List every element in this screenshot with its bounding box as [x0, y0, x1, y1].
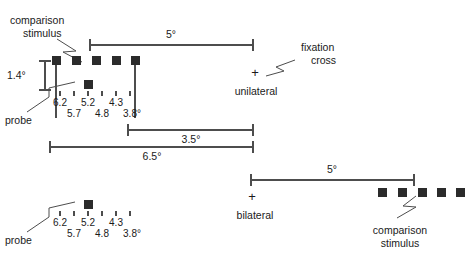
- comparison-square-top-3: [92, 56, 101, 65]
- probe-square-bottom: [84, 200, 93, 209]
- probe-scale-top-value-5-7: 5.7: [67, 108, 81, 120]
- stimulus-layout-figure: comparison stimulus 5° 1.4° 6.2 5.2 4.3 …: [0, 0, 469, 262]
- comparison-square-bottom-3: [418, 188, 427, 197]
- comparison-square-bottom-5: [456, 188, 465, 197]
- comparison-stimulus-label-top-line2: stimulus: [23, 27, 62, 39]
- fixation-cross-label-line1: fixation: [301, 41, 334, 53]
- fixation-cross-glyph-unilateral: +: [251, 66, 259, 81]
- measure-label-top-5deg: 5°: [166, 28, 176, 40]
- probe-label-bottom: probe: [5, 234, 32, 246]
- fixation-cross-label-line2: cross: [311, 54, 336, 66]
- comparison-square-top-4: [112, 56, 121, 65]
- probe-scale-bottom-value-4-3: 4.3: [109, 217, 123, 229]
- probe-square-bottom-group: [84, 200, 93, 209]
- comparison-square-top-1: [52, 56, 61, 65]
- comparison-square-top-2: [72, 56, 81, 65]
- comparison-squares-bottom: [378, 188, 465, 197]
- probe-scale-bottom-value-3-8: 3.8°: [123, 228, 141, 240]
- condition-label-unilateral: unilateral: [235, 85, 278, 97]
- comparison-squares-top: [52, 56, 140, 65]
- comparison-square-top-5: [131, 56, 140, 65]
- probe-square-top: [84, 80, 93, 89]
- probe-square-top-group: [84, 80, 93, 89]
- condition-label-bilateral: bilateral: [237, 209, 274, 221]
- comparison-square-bottom-2: [398, 188, 407, 197]
- probe-scale-bottom-value-4-8: 4.8: [95, 228, 109, 240]
- comparison-stimulus-label-top-line1: comparison: [10, 14, 64, 26]
- fixation-cross-glyph-bilateral: +: [248, 190, 256, 205]
- probe-scale-top-value-4-8: 4.8: [95, 108, 109, 120]
- measure-label-3-5deg: 3.5°: [182, 133, 201, 145]
- probe-scale-top-value-4-3: 4.3: [109, 97, 123, 109]
- comparison-stimulus-label-bottom-line1: comparison: [373, 224, 427, 236]
- probe-scale-bottom-value-5-7: 5.7: [67, 228, 81, 240]
- measure-label-bottom-5deg: 5°: [327, 163, 337, 175]
- probe-scale-top-value-3-8: 3.8°: [123, 108, 141, 120]
- probe-scale-top-value-6-2: 6.2: [53, 97, 67, 109]
- comparison-squares-top-layer: [0, 0, 469, 262]
- probe-scale-bottom-value-5-2: 5.2: [81, 217, 95, 229]
- measure-label-6-5deg: 6.5°: [143, 150, 162, 162]
- probe-scale-top-value-5-2: 5.2: [81, 97, 95, 109]
- comparison-stimulus-label-bottom-line2: stimulus: [381, 237, 420, 249]
- comparison-square-bottom-1: [378, 188, 387, 197]
- probe-scale-bottom-value-6-2: 6.2: [53, 217, 67, 229]
- comparison-square-bottom-4: [437, 188, 446, 197]
- probe-label-top: probe: [5, 114, 32, 126]
- measure-label-1-4deg: 1.4°: [7, 69, 26, 81]
